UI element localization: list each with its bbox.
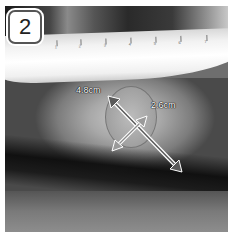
long-axis-label: 4.8cm [76,85,101,95]
panel-number-badge: 2 [8,10,42,44]
short-axis-label: 2.6cm [151,100,176,110]
panel-number: 2 [19,14,31,40]
